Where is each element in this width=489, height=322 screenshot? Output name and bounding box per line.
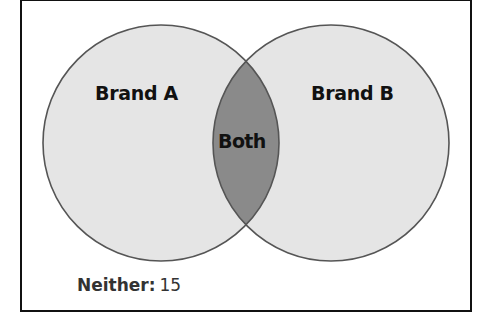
venn-diagram xyxy=(0,0,489,322)
both-label: Both xyxy=(218,132,266,151)
neither-caption: Neither:15 xyxy=(77,277,181,294)
brand-a-label: Brand A xyxy=(95,84,178,103)
brand-b-label: Brand B xyxy=(311,84,394,103)
neither-value: 15 xyxy=(160,275,182,295)
neither-label: Neither: xyxy=(77,275,156,295)
